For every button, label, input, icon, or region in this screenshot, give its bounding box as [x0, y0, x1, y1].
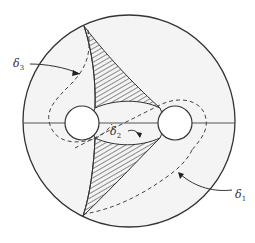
label-delta3: δ3 [13, 58, 24, 72]
label-delta1-symbol: δ [235, 188, 242, 201]
label-delta2: δ2 [110, 126, 121, 140]
label-delta2-sub: 2 [117, 132, 121, 140]
left-hole [65, 106, 99, 140]
right-hole [158, 106, 192, 140]
label-delta3-sub: 3 [20, 64, 24, 72]
diagram-figure [0, 0, 255, 243]
label-delta1: δ1 [235, 189, 246, 203]
label-delta2-symbol: δ [110, 125, 117, 138]
label-delta1-sub: 1 [242, 195, 246, 203]
label-delta3-symbol: δ [13, 57, 20, 70]
